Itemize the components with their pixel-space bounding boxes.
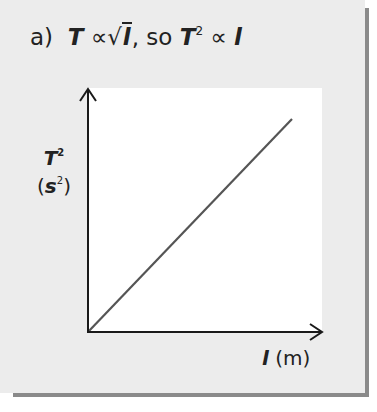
y-axis-symbol: T2: [34, 146, 74, 170]
y-symbol-exponent: 2: [57, 147, 64, 158]
y-axis-label: T2 (s2): [34, 146, 74, 198]
x-axis-symbol: l: [262, 346, 269, 370]
x-axis-label: l (m): [262, 346, 310, 370]
y-axis-unit: (s2): [34, 174, 74, 198]
y-unit-open: (: [37, 174, 45, 198]
chart-svg: [0, 0, 377, 412]
y-unit-close: ): [63, 174, 71, 198]
x-axis-unit: (m): [269, 346, 310, 370]
y-unit-symbol: s: [45, 174, 57, 198]
y-symbol-text: T: [44, 146, 58, 170]
data-line: [88, 119, 292, 332]
